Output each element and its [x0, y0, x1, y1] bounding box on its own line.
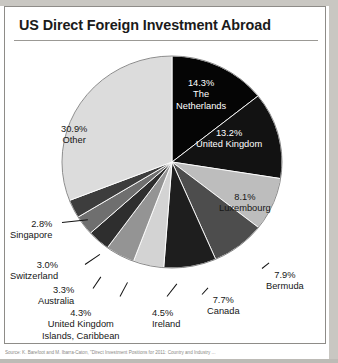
slice-label-uk-islands-caribbean: 4.3% United Kingdom Islands, Caribbean [42, 308, 120, 342]
slice-value-uk-islands-caribbean: 4.3% [70, 308, 91, 318]
slice-label-ireland: 4.5% Ireland [152, 308, 180, 331]
slice-name-switzerland: Switzerland [10, 271, 58, 281]
slice-value-other: 30.9% [61, 124, 87, 134]
slice-name-netherlands-line1: The [193, 89, 209, 99]
slice-name-canada: Canada [207, 306, 240, 316]
slice-label-switzerland: 3.0% Switzerland [10, 260, 58, 283]
slice-value-ireland: 4.5% [152, 308, 173, 318]
source-note: Source: K. Barefoot and M. Ibarra-Caton,… [5, 350, 325, 355]
slice-label-australia: 3.3% Australia [38, 285, 74, 308]
slice-value-singapore: 2.8% [31, 219, 52, 229]
pie-slices [62, 56, 282, 268]
slice-value-united-kingdom: 13.2% [216, 128, 242, 138]
slice-name-uk-islands-caribbean-line1: United Kingdom [48, 319, 114, 329]
slice-name-singapore: Singapore [10, 230, 52, 240]
title-divider [14, 40, 318, 41]
slice-value-switzerland: 3.0% [37, 260, 58, 270]
chart-page: US Direct Foreign Investment Abroad 14.3… [0, 0, 338, 363]
slice-value-netherlands: 14.3% [188, 78, 214, 88]
slice-name-bermuda: Bermuda [266, 281, 304, 291]
slice-label-other: 30.9% Other [61, 124, 87, 147]
slice-value-australia: 3.3% [53, 285, 74, 295]
slice-label-netherlands: 14.3% The Netherlands [176, 78, 226, 112]
slice-name-other: Other [63, 135, 86, 145]
slice-name-australia: Australia [38, 296, 74, 306]
slice-label-bermuda: 7.9% Bermuda [266, 270, 304, 293]
slice-value-luxembourg: 8.1% [234, 192, 255, 202]
slice-name-luxembourg: Luxembourg [219, 203, 271, 213]
scan-edge-bottom [0, 359, 338, 363]
slice-label-luxembourg: 8.1% Luxembourg [219, 192, 271, 215]
slice-name-netherlands-line2: Netherlands [176, 101, 226, 111]
slice-value-bermuda: 7.9% [274, 270, 295, 280]
slice-label-singapore: 2.8% Singapore [10, 219, 52, 242]
scan-edge-right [329, 0, 338, 363]
slice-value-canada: 7.7% [213, 295, 234, 305]
slice-label-canada: 7.7% Canada [207, 295, 240, 318]
slice-name-uk-islands-caribbean-line2: Islands, Caribbean [42, 331, 120, 341]
slice-label-united-kingdom: 13.2% United Kingdom [196, 128, 262, 151]
slice-name-united-kingdom: United Kingdom [196, 139, 262, 149]
page-title: US Direct Foreign Investment Abroad [19, 17, 271, 33]
slice-name-ireland: Ireland [152, 319, 180, 329]
pie-chart [62, 49, 282, 281]
pie-svg [62, 49, 282, 281]
